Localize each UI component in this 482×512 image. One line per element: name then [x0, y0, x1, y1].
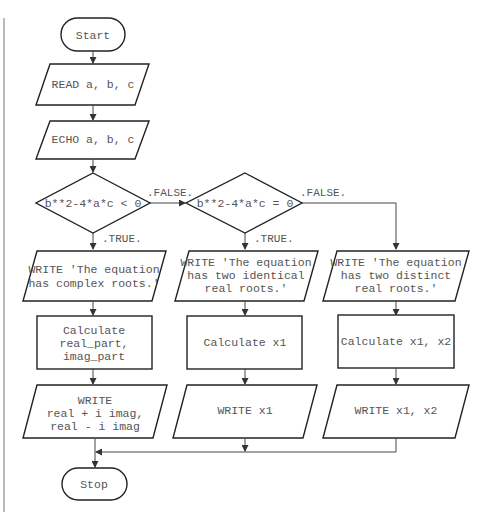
- write-identical-line3: real roots.': [205, 282, 288, 295]
- calculate-x1-x2: Calculate x1, x2: [338, 315, 454, 368]
- calculate-x1: Calculate x1: [187, 316, 302, 369]
- write-distinct-line1: WRITE 'The equation: [330, 256, 461, 269]
- write-x1: WRITE x1: [173, 385, 317, 438]
- write-complex-line2: has complex roots.': [28, 277, 159, 290]
- flowchart: Start READ a, b, c ECHO a, b, c b**2-4*a…: [0, 0, 482, 512]
- write-identical-line2: has two identical: [187, 269, 304, 282]
- write-x1-x2: WRITE x1, x2: [323, 385, 469, 438]
- d1-false-label: .FALSE.: [147, 187, 193, 199]
- write-distinct-line3: real roots.': [355, 282, 438, 295]
- d1-true-label: .TRUE.: [102, 233, 142, 245]
- d2-true-label: .TRUE.: [254, 233, 294, 245]
- out-x1x2-label: WRITE x1, x2: [355, 404, 438, 417]
- calc-x1x2-label: Calculate x1, x2: [341, 335, 452, 348]
- calc-complex-line3: imag_part: [63, 350, 125, 363]
- stop-terminal: Stop: [62, 468, 127, 500]
- read-input: READ a, b, c: [36, 64, 149, 105]
- write-distinct-message: WRITE 'The equation has two distinct rea…: [323, 251, 469, 301]
- stop-label: Stop: [80, 478, 108, 491]
- out-complex-line2: real + i imag,: [47, 407, 144, 420]
- decision-discriminant-negative: b**2-4*a*c < 0: [36, 173, 150, 233]
- read-label: READ a, b, c: [52, 78, 135, 91]
- out-x1-label: WRITE x1: [217, 404, 272, 417]
- decision-discriminant-zero: b**2-4*a*c = 0: [186, 173, 302, 233]
- calc-x1-label: Calculate x1: [204, 336, 287, 349]
- out-complex-line1: WRITE: [78, 394, 113, 407]
- write-complex-line1: WRITE 'The equation: [28, 263, 159, 276]
- write-identical-line1: WRITE 'The equation: [180, 256, 311, 269]
- d2-false-label: .FALSE.: [300, 187, 346, 199]
- calc-complex-line2: real_part,: [59, 337, 128, 350]
- decision1-label: b**2-4*a*c < 0: [45, 197, 142, 210]
- decision2-label: b**2-4*a*c = 0: [197, 197, 294, 210]
- write-distinct-line2: has two distinct: [341, 269, 451, 282]
- start-label: Start: [76, 29, 111, 42]
- write-complex-message: WRITE 'The equation has complex roots.': [23, 251, 166, 301]
- start-terminal: Start: [61, 18, 125, 51]
- echo-label: ECHO a, b, c: [52, 133, 135, 146]
- write-identical-message: WRITE 'The equation has two identical re…: [175, 251, 318, 301]
- calc-complex-line1: Calculate: [63, 324, 125, 337]
- calculate-complex-parts: Calculate real_part, imag_part: [37, 316, 152, 369]
- echo-output: ECHO a, b, c: [36, 121, 149, 159]
- out-complex-line3: real - i imag: [50, 420, 140, 433]
- write-complex-roots: WRITE real + i imag, real - i imag: [23, 385, 167, 438]
